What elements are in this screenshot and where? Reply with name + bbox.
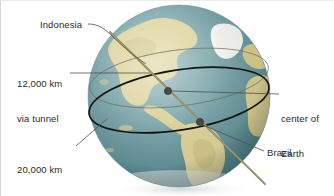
label-indonesia: Indonesia [40,19,82,31]
label-center-line1: center of [281,113,319,125]
label-center-of-earth: center of Earth [281,90,319,182]
label-circle-line1: 20,000 km [17,164,62,176]
label-indonesia-text: Indonesia [40,19,82,30]
label-tunnel-line1: 12,000 km [17,78,62,90]
globe-shading [88,5,270,187]
label-brazil: Brazil [267,147,291,159]
label-tunnel-line2: via tunnel [17,113,62,125]
globe [88,5,284,196]
center-of-earth-marker [164,87,171,94]
brazil-marker [196,118,203,125]
label-circle-distance: 20,000 km via circle [17,141,62,196]
label-brazil-text: Brazil [267,147,291,158]
earth-tunnel-diagram: Indonesia 12,000 km via tunnel 20,000 km… [0,0,334,196]
label-tunnel-distance: 12,000 km via tunnel [17,55,62,147]
